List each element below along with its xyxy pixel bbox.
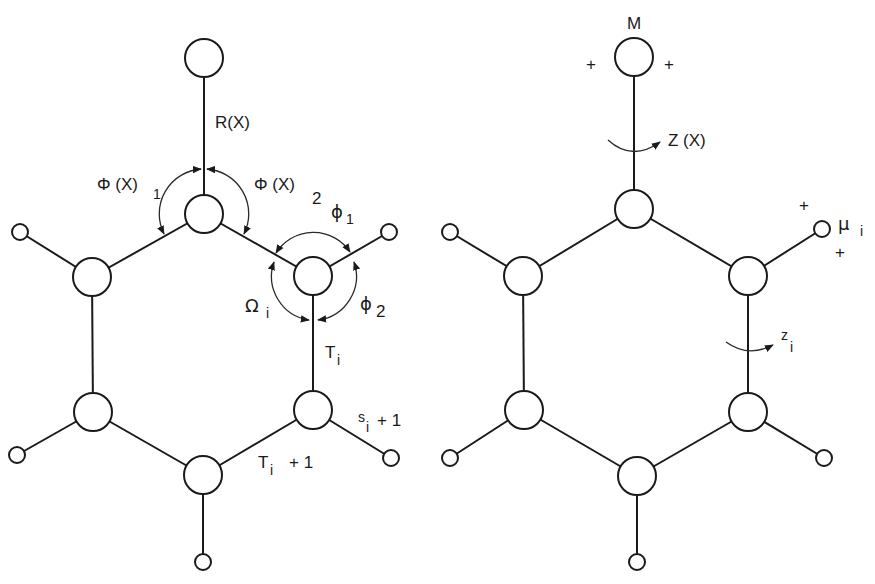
ring-atom-2 <box>729 257 767 295</box>
hydrogen-atom <box>816 450 832 466</box>
plus-left-label: + <box>586 55 596 74</box>
left-molecule-diagram: R(X) Φ (X) 1 Φ (X) 2 ϕ 1 Ω i ϕ 2 T i s i… <box>9 39 401 570</box>
right-molecule-diagram: M + + Z (X) + μ i + z i <box>442 14 863 570</box>
hydrogen-atom <box>442 450 458 466</box>
omega-subscript: i <box>266 305 269 321</box>
ring-atom-4 <box>184 456 222 494</box>
ring-atom-4 <box>618 457 656 495</box>
mu-label: μ <box>838 213 850 234</box>
ring-atom-2 <box>294 257 332 295</box>
ring-atom-5 <box>74 393 112 431</box>
torsion-t-next-suffix: + 1 <box>289 453 313 472</box>
angle-phi-x2-subscript: 2 <box>312 189 321 208</box>
hydrogen-atom <box>12 224 28 240</box>
omega-label: Ω <box>245 295 259 316</box>
angle-phi-x2-label: Φ (X) <box>254 175 295 194</box>
ring-torsion-z-label: z <box>781 327 788 343</box>
molecule-diagrams: R(X) Φ (X) 1 Φ (X) 2 ϕ 1 Ω i ϕ 2 T i s i… <box>0 0 875 584</box>
torsion-z-label: Z (X) <box>668 131 706 150</box>
mu-subscript: i <box>860 223 863 239</box>
hydrogen-atom <box>195 554 211 570</box>
angle-phi-x1-label: Φ (X) <box>97 175 138 194</box>
ring-torsion-z-subscript: i <box>790 339 793 355</box>
ring-atom-5 <box>505 391 543 429</box>
bond-length-label: R(X) <box>215 113 250 132</box>
hydrogen-atom <box>381 224 397 240</box>
right-atoms <box>442 38 832 570</box>
hydrogen-atom <box>383 450 399 466</box>
phi2-subscript: 2 <box>376 302 385 321</box>
mu-plus-bottom-label: + <box>835 243 845 262</box>
plus-right-label: + <box>664 55 674 74</box>
phi2-label: ϕ <box>360 293 372 314</box>
ring-atom-3 <box>729 393 767 431</box>
substituent-atom-x <box>185 39 223 77</box>
left-labels: R(X) Φ (X) 1 Φ (X) 2 ϕ 1 Ω i ϕ 2 T i s i… <box>97 113 401 478</box>
torsion-t-label: T <box>325 343 335 362</box>
s-prefix-label: s <box>358 409 365 425</box>
hydrogen-atom <box>629 554 645 570</box>
ring-atom-1 <box>615 190 653 228</box>
s-subscript: i <box>366 419 369 435</box>
ring-atom-3 <box>294 391 332 429</box>
torsion-t-subscript: i <box>337 352 340 368</box>
angle-phi-x1-subscript: 1 <box>153 186 161 202</box>
mu-plus-top-label: + <box>799 196 809 215</box>
ring-atom-6 <box>73 258 111 296</box>
phi1-label: ϕ <box>331 201 343 222</box>
hydrogen-atom <box>442 224 458 240</box>
phi1-subscript: 1 <box>346 211 354 227</box>
s-suffix-label: + 1 <box>377 411 401 430</box>
hydrogen-atom <box>9 447 25 463</box>
ring-torsion-rotation-arrow <box>726 342 773 351</box>
mass-atom-m <box>615 38 653 76</box>
torsion-t-next-subscript: i <box>270 462 273 478</box>
mass-label: M <box>627 14 641 33</box>
ring-atom-1 <box>185 195 223 233</box>
torsion-t-next-label: T <box>258 453 268 472</box>
hydrogen-atom <box>814 221 830 237</box>
ring-atom-6 <box>504 257 542 295</box>
